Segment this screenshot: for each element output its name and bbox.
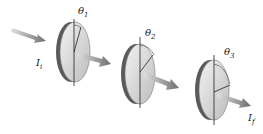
incident-intensity-label: Ii bbox=[36, 58, 42, 71]
polarizer-1 bbox=[56, 19, 90, 86]
final-intensity-label: If bbox=[248, 113, 255, 126]
incident-light-arrow bbox=[11, 28, 46, 43]
theta-2-label: θ2 bbox=[145, 28, 156, 41]
polarizer-3 bbox=[195, 55, 230, 125]
theta-1-label: θ1 bbox=[78, 6, 89, 19]
theta-3-label: θ3 bbox=[224, 47, 235, 60]
polarizer-2 bbox=[121, 37, 155, 108]
